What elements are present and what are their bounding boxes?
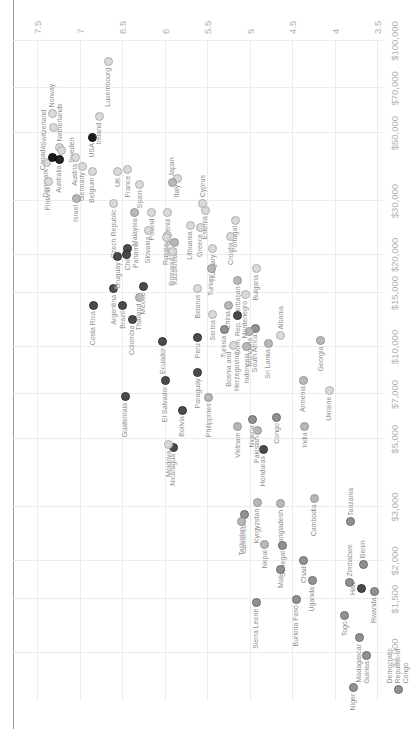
country-dot[interactable] (276, 331, 285, 340)
country-dot[interactable] (359, 560, 368, 569)
country-dot[interactable] (253, 498, 262, 507)
country-dot[interactable] (72, 194, 81, 203)
country-label: Belgium (88, 177, 96, 202)
country-dot[interactable] (300, 422, 309, 431)
gdp-axis-tick-label: $2,000 (389, 546, 400, 575)
country-dot[interactable] (278, 541, 287, 550)
satisfaction-axis-tick-label: 6.5 (117, 21, 128, 34)
country-dot[interactable] (161, 376, 170, 385)
country-dot[interactable] (370, 587, 379, 596)
country-dot[interactable] (168, 247, 177, 256)
country-dot[interactable] (130, 208, 139, 217)
country-dot[interactable] (55, 155, 64, 164)
country-dot[interactable] (113, 252, 122, 261)
country-dot[interactable] (118, 301, 127, 310)
country-dot[interactable] (325, 386, 334, 395)
country-dot[interactable] (357, 584, 366, 593)
country-dot[interactable] (128, 315, 137, 324)
country-label: Bosnia andHerzegovina (225, 352, 241, 391)
country-dot[interactable] (231, 216, 240, 225)
country-dot[interactable] (349, 683, 358, 692)
country-label: Spain (136, 190, 144, 208)
country-dot[interactable] (178, 406, 187, 415)
country-label: Zimbabwe (346, 544, 354, 576)
satisfaction-axis-tick-label: 7.5 (32, 21, 43, 34)
country-label: Mali (277, 575, 285, 588)
country-dot[interactable] (233, 276, 242, 285)
country-dot[interactable] (248, 415, 257, 424)
country-dot[interactable] (208, 310, 217, 319)
country-label: El Salvador (161, 386, 169, 422)
country-label: Burkina Faso (292, 605, 300, 646)
gridline-satisfaction (207, 41, 208, 701)
country-dot[interactable] (308, 576, 317, 585)
country-dot[interactable] (163, 208, 172, 217)
country-dot[interactable] (123, 165, 132, 174)
country-dot[interactable] (208, 244, 217, 253)
country-dot[interactable] (310, 494, 319, 503)
country-dot[interactable] (394, 685, 403, 694)
country-dot[interactable] (316, 336, 325, 345)
satisfaction-axis-tick-label: 5 (244, 29, 255, 34)
country-dot[interactable] (224, 301, 233, 310)
country-dot[interactable] (109, 199, 118, 208)
country-label: Portugal (231, 226, 239, 252)
country-label: Costa Rica (89, 311, 97, 345)
gdp-axis-tick-label: $50,000 (389, 116, 400, 150)
country-label: Paraguay (194, 378, 202, 408)
country-label: Chad (300, 566, 308, 583)
country-dot[interactable] (170, 238, 179, 247)
country-dot[interactable] (193, 368, 202, 377)
country-dot[interactable] (89, 301, 98, 310)
country-dot[interactable] (104, 57, 113, 66)
country-dot[interactable] (252, 598, 261, 607)
country-dot[interactable] (95, 112, 104, 121)
country-dot[interactable] (233, 311, 242, 320)
gdp-axis-tick-label: $3,000 (389, 492, 400, 521)
country-dot[interactable] (346, 518, 355, 527)
country-label: Cyprus (199, 175, 207, 197)
country-dot[interactable] (186, 221, 195, 230)
country-dot[interactable] (139, 282, 148, 291)
country-dot[interactable] (57, 146, 66, 155)
country-dot[interactable] (272, 413, 281, 422)
country-dot[interactable] (198, 199, 207, 208)
country-dot[interactable] (292, 595, 301, 604)
country-label: India (301, 432, 309, 447)
country-dot[interactable] (241, 290, 250, 299)
country-label: Ukraine (325, 397, 333, 421)
country-dot[interactable] (362, 651, 371, 660)
country-label: Poland (148, 219, 156, 241)
country-dot[interactable] (44, 177, 53, 186)
country-dot[interactable] (220, 325, 229, 334)
country-dot[interactable] (299, 556, 308, 565)
country-dot[interactable] (168, 178, 177, 187)
country-dot[interactable] (355, 633, 364, 642)
country-dot[interactable] (158, 337, 167, 346)
country-dot[interactable] (113, 167, 122, 176)
country-dot[interactable] (78, 162, 87, 171)
country-label: Bulgaria (252, 275, 260, 301)
country-dot[interactable] (276, 499, 285, 508)
gridline-satisfaction (122, 41, 123, 701)
gdp-axis-tick-label: $5,000 (389, 425, 400, 454)
country-dot[interactable] (121, 392, 130, 401)
country-dot[interactable] (264, 339, 273, 348)
country-dot[interactable] (204, 393, 213, 402)
country-dot[interactable] (147, 208, 156, 217)
country-dot[interactable] (340, 611, 349, 620)
country-dot[interactable] (88, 167, 97, 176)
country-dot[interactable] (193, 333, 202, 342)
satisfaction-axis-tick-label: 6 (159, 29, 170, 34)
country-dot[interactable] (252, 264, 261, 273)
country-label: Japan (168, 157, 176, 176)
country-label: Congo (273, 423, 281, 444)
country-dot[interactable] (299, 376, 308, 385)
country-dot[interactable] (71, 153, 80, 162)
country-dot[interactable] (237, 517, 246, 526)
country-dot[interactable] (135, 180, 144, 189)
country-dot[interactable] (233, 422, 242, 431)
country-dot[interactable] (229, 341, 238, 350)
country-dot[interactable] (260, 540, 269, 549)
country-label: Tajikistan (238, 527, 246, 556)
